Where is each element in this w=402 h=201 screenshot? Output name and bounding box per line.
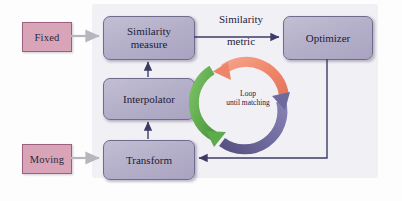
loop-arc-salmon-icon	[213, 62, 284, 96]
loop-arc-green-icon	[194, 70, 226, 147]
loop-arc-purple-icon	[222, 92, 290, 149]
diagram-canvas: Fixed Moving Similarity measure Optimize…	[0, 0, 402, 201]
connector-overlay	[0, 0, 402, 201]
